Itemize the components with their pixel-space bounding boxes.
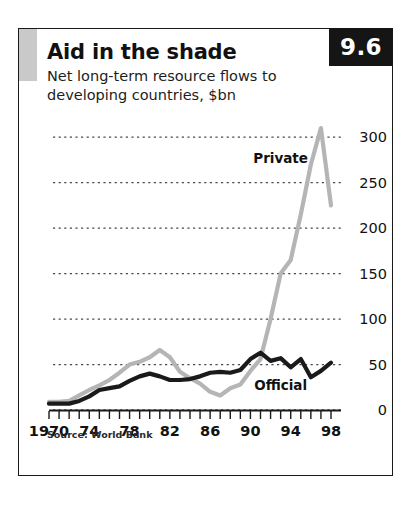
series-line-private bbox=[49, 128, 331, 402]
x-axis-tick-label: 86 bbox=[200, 423, 220, 439]
y-axis-tick-label: 0 bbox=[378, 402, 387, 418]
chart-card-page: 9.6 Aid in the shade Net long-term resou… bbox=[0, 0, 415, 518]
y-axis-tick-label: 250 bbox=[359, 175, 387, 191]
y-axis-tick-label: 300 bbox=[359, 129, 387, 145]
x-axis-tick-label: 82 bbox=[160, 423, 180, 439]
y-axis-tick-label: 150 bbox=[359, 266, 387, 282]
chart-source: Source: World Bank bbox=[47, 429, 152, 440]
line-chart-svg: 050100150200250300197074788286909498Priv… bbox=[19, 29, 394, 477]
series-annotation-private: Private bbox=[253, 150, 308, 166]
chart-plot-area: 050100150200250300197074788286909498Priv… bbox=[19, 29, 394, 477]
chart-card: 9.6 Aid in the shade Net long-term resou… bbox=[18, 28, 393, 476]
y-axis-tick-label: 100 bbox=[359, 311, 387, 327]
x-axis-tick-label: 90 bbox=[240, 423, 260, 439]
x-axis-tick-label: 98 bbox=[321, 423, 341, 439]
y-axis-tick-label: 200 bbox=[359, 220, 387, 236]
x-axis-tick-label: 94 bbox=[281, 423, 301, 439]
series-annotation-official: Official bbox=[254, 377, 307, 393]
y-axis-tick-label: 50 bbox=[369, 357, 387, 373]
